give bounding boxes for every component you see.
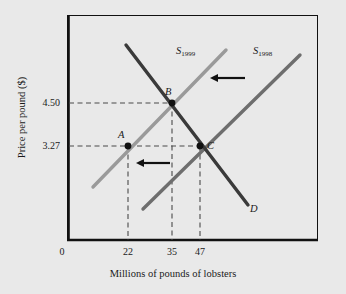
point-b-label: B [165,86,171,97]
supply-curve-1999 [93,50,226,187]
x-tick-label-35: 35 [157,246,187,257]
x-tick-label-47: 47 [185,246,215,257]
supply-shift-arrow-upper [210,74,245,82]
lobster-supply-demand-figure: Price per pound ($) Millions of pounds o… [0,0,346,294]
x-tick-label-22: 22 [113,246,143,257]
point-b-marker [169,100,176,107]
point-a-label: A [118,129,124,140]
demand-curve-label: D [250,203,258,214]
supply-1999-curve-label: S1999 [176,45,195,56]
supply-1999-label-sub: 1999 [181,50,195,58]
supply-shift-arrow-lower [136,159,170,167]
x-axis-title: Millions of pounds of lobsters [0,268,346,279]
supply-1998-label-sub: 1998 [258,50,272,58]
y-tick-label-450: 4.50 [20,97,60,108]
y-axis-title: Price per pound ($) [16,53,27,183]
x-tick-label-0: 0 [47,246,77,257]
point-c-label: C [207,140,214,151]
point-c-marker [197,143,204,150]
y-tick-label-327: 3.27 [20,140,60,151]
point-a-marker [125,143,132,150]
supply-1998-curve-label: S1998 [253,45,272,56]
